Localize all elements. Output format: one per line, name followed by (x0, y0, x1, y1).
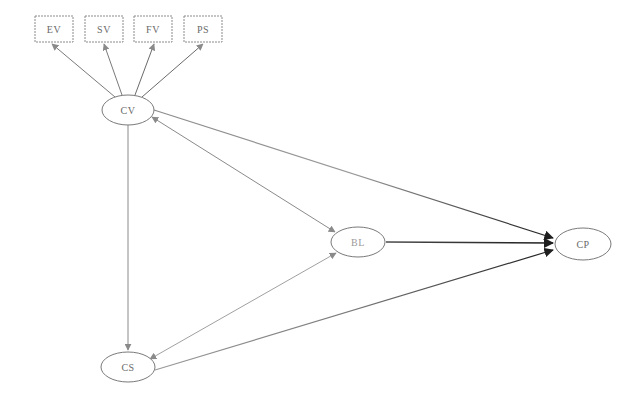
observed-indicators: EV SV FV PS (35, 16, 222, 42)
construct-cs-label: CS (121, 362, 134, 373)
edge-cv-ev (52, 44, 115, 97)
indicator-ev-label: EV (47, 24, 62, 35)
sem-diagram: EV SV FV PS CV BL CP CS (0, 0, 635, 403)
construct-cs[interactable]: CS (101, 352, 155, 382)
construct-bl-label: BL (351, 237, 365, 248)
indicator-fv-label: FV (146, 24, 160, 35)
indicator-sv[interactable]: SV (85, 16, 123, 42)
construct-cv[interactable]: CV (102, 95, 154, 125)
edge-bl-cp (386, 242, 553, 243)
edge-cv-sv (104, 44, 122, 95)
indicator-ps[interactable]: PS (184, 16, 222, 42)
indicator-ps-label: PS (197, 24, 209, 35)
indicator-sv-label: SV (97, 24, 111, 35)
edge-cv-cp (154, 110, 553, 238)
edge-cv-bl (152, 117, 335, 232)
indicator-fv[interactable]: FV (134, 16, 172, 42)
latent-constructs: CV BL CP CS (101, 95, 611, 382)
edge-cs-cp (155, 250, 553, 370)
edge-cv-fv (135, 44, 154, 95)
construct-cp[interactable]: CP (555, 228, 611, 260)
construct-cv-label: CV (121, 105, 136, 116)
indicator-ev[interactable]: EV (35, 16, 73, 42)
construct-cp-label: CP (576, 239, 589, 250)
indicator-edges (52, 44, 203, 97)
construct-bl[interactable]: BL (331, 227, 385, 257)
